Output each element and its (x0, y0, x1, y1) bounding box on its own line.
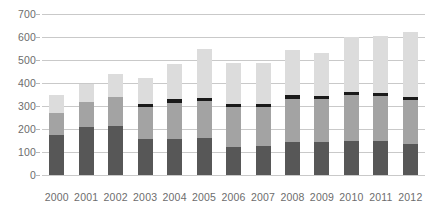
y-tick-label-0: 0 (30, 169, 36, 181)
bar-segment-segment-4-light-gray (285, 50, 300, 95)
y-tick-mark-200 (36, 129, 40, 130)
bar-segment-segment-4-light-gray (197, 49, 212, 98)
bar-segment-segment-2-medium-gray (197, 101, 212, 138)
x-tick-label-2011: 2011 (366, 191, 395, 203)
y-tick-mark-300 (36, 106, 40, 107)
y-tick-label-700: 700 (18, 8, 36, 20)
bar-segment-segment-1-dark-gray (108, 126, 123, 175)
y-tick-label-500: 500 (18, 54, 36, 66)
stacked-bar[interactable] (79, 84, 94, 175)
bar-segment-segment-2-medium-gray (138, 107, 153, 139)
bar-column[interactable] (248, 14, 277, 175)
bar-column[interactable] (101, 14, 130, 175)
bar-segment-segment-1-dark-gray (373, 141, 388, 176)
bar-segment-segment-4-light-gray (373, 36, 388, 93)
bar-segment-segment-4-light-gray (167, 64, 182, 99)
y-tick-mark-700 (36, 14, 40, 15)
stacked-bar[interactable] (285, 50, 300, 175)
bar-segment-segment-2-medium-gray (79, 102, 94, 127)
bar-segment-segment-2-medium-gray (256, 107, 271, 146)
x-tick-label-2006: 2006 (219, 191, 248, 203)
bar-segment-segment-1-dark-gray (403, 144, 418, 175)
bar-segment-segment-1-dark-gray (167, 139, 182, 175)
stacked-bar[interactable] (403, 32, 418, 175)
bar-segment-segment-4-light-gray (138, 78, 153, 104)
y-tick-label-100: 100 (18, 146, 36, 158)
y-tick-label-200: 200 (18, 123, 36, 135)
stacked-bar[interactable] (197, 49, 212, 175)
bar-column[interactable] (278, 14, 307, 175)
stacked-bar[interactable] (226, 63, 241, 175)
stacked-bar-chart: 0100200300400500600700 20002001200220032… (0, 0, 433, 211)
y-tick-label-400: 400 (18, 77, 36, 89)
bar-segment-segment-1-dark-gray (138, 139, 153, 175)
stacked-bar[interactable] (344, 37, 359, 175)
x-tick-label-2008: 2008 (278, 191, 307, 203)
y-tick-label-300: 300 (18, 100, 36, 112)
bar-segment-segment-2-medium-gray (373, 96, 388, 140)
bar-column[interactable] (219, 14, 248, 175)
bar-segment-segment-4-light-gray (79, 84, 94, 102)
x-tick-label-2000: 2000 (42, 191, 71, 203)
y-tick-mark-400 (36, 83, 40, 84)
x-tick-label-2004: 2004 (160, 191, 189, 203)
bar-segment-segment-1-dark-gray (79, 127, 94, 175)
bar-column[interactable] (307, 14, 336, 175)
y-tick-mark-500 (36, 60, 40, 61)
bar-segment-segment-4-light-gray (314, 53, 329, 96)
y-tick-mark-0 (36, 175, 40, 176)
bar-segment-segment-2-medium-gray (108, 97, 123, 126)
x-tick-label-2003: 2003 (130, 191, 159, 203)
bar-column[interactable] (160, 14, 189, 175)
x-tick-label-2009: 2009 (307, 191, 336, 203)
bar-column[interactable] (130, 14, 159, 175)
x-tick-label-2012: 2012 (396, 191, 425, 203)
bar-segment-segment-1-dark-gray (256, 146, 271, 175)
bar-column[interactable] (189, 14, 218, 175)
stacked-bar[interactable] (314, 53, 329, 175)
bar-segment-segment-4-light-gray (49, 95, 64, 113)
bar-segment-segment-1-dark-gray (285, 142, 300, 175)
bar-segment-segment-2-medium-gray (226, 107, 241, 147)
stacked-bar[interactable] (373, 36, 388, 175)
x-tick-label-2007: 2007 (248, 191, 277, 203)
bar-segment-segment-2-medium-gray (344, 95, 359, 140)
stacked-bar[interactable] (138, 78, 153, 175)
x-tick-label-2010: 2010 (337, 191, 366, 203)
bar-segment-segment-1-dark-gray (344, 141, 359, 176)
bar-segment-segment-4-light-gray (344, 37, 359, 91)
bar-column[interactable] (337, 14, 366, 175)
x-tick-label-2005: 2005 (189, 191, 218, 203)
bar-column[interactable] (71, 14, 100, 175)
stacked-bar[interactable] (167, 64, 182, 175)
bar-segment-segment-2-medium-gray (314, 99, 329, 142)
bar-segment-segment-1-dark-gray (226, 147, 241, 175)
y-tick-mark-100 (36, 152, 40, 153)
x-tick-label-2001: 2001 (71, 191, 100, 203)
stacked-bar[interactable] (108, 74, 123, 175)
bar-segment-segment-2-medium-gray (403, 100, 418, 145)
x-tick-label-2002: 2002 (101, 191, 130, 203)
y-tick-mark-600 (36, 37, 40, 38)
stacked-bar[interactable] (49, 95, 64, 175)
bar-segment-segment-4-light-gray (108, 74, 123, 97)
gridline-0 (42, 175, 425, 176)
x-axis-labels: 2000200120022003200420052006200720082009… (42, 191, 425, 203)
bar-column[interactable] (396, 14, 425, 175)
bar-segment-segment-1-dark-gray (49, 135, 64, 175)
bar-segment-segment-1-dark-gray (197, 138, 212, 175)
bar-segment-segment-2-medium-gray (167, 103, 182, 139)
stacked-bar[interactable] (256, 63, 271, 175)
y-tick-label-600: 600 (18, 31, 36, 43)
plot-area: 0100200300400500600700 (42, 14, 425, 175)
bar-segment-segment-1-dark-gray (314, 142, 329, 175)
bar-segment-segment-2-medium-gray (285, 99, 300, 142)
bar-column[interactable] (366, 14, 395, 175)
bar-column[interactable] (42, 14, 71, 175)
bar-segment-segment-4-light-gray (256, 63, 271, 103)
bars-group (42, 14, 425, 175)
bar-segment-segment-4-light-gray (403, 32, 418, 97)
bar-segment-segment-4-light-gray (226, 63, 241, 104)
bar-segment-segment-2-medium-gray (49, 113, 64, 135)
